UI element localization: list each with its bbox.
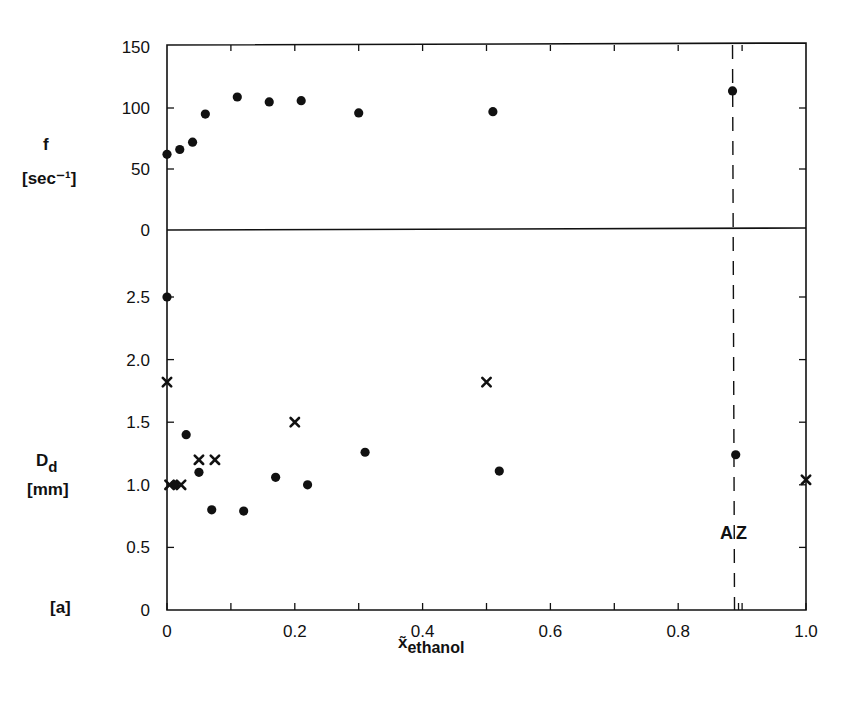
x-tick-label: 1.0 <box>794 622 818 641</box>
panel-label: [a] <box>50 598 71 617</box>
d-tick-label: 0 <box>141 601 150 620</box>
d-tick-label: 1.0 <box>126 476 150 495</box>
axis-titles: f [sec⁻¹] Dd [mm] [a] x̃ethanol AZ <box>22 135 750 656</box>
f-axis-label: f <box>43 135 49 154</box>
f-unit-text: [sec⁻¹] <box>22 169 76 188</box>
circle-marker <box>194 468 203 477</box>
f-tick-label: 50 <box>131 160 150 179</box>
f-tick-label: 150 <box>122 38 150 57</box>
circle-marker <box>297 96 306 105</box>
d-axis-label: Dd <box>36 451 57 475</box>
circle-marker <box>162 150 171 159</box>
axis-ticks <box>167 45 806 610</box>
data-points <box>162 86 810 515</box>
d-axis-unit: [mm] <box>27 480 69 499</box>
f-tick-label: 100 <box>122 99 150 118</box>
circle-marker <box>495 466 504 475</box>
circle-marker <box>188 138 197 147</box>
circle-marker <box>265 97 274 106</box>
d-tick-label: 2.5 <box>126 288 150 307</box>
f-axis-unit: [sec⁻¹] <box>22 169 76 188</box>
x-tick-label: 0.6 <box>539 622 563 641</box>
d-tick-label: 1.5 <box>126 413 150 432</box>
circle-marker <box>233 92 242 101</box>
cross-marker <box>482 378 490 386</box>
circle-marker <box>182 430 191 439</box>
cross-marker <box>211 456 219 464</box>
azeotrope-label: AZ <box>720 523 750 543</box>
d-tick-label: 2.0 <box>126 351 150 370</box>
circle-marker <box>731 450 740 459</box>
circle-marker <box>175 145 184 154</box>
cross-marker <box>195 456 203 464</box>
x-tick-label: 0.8 <box>666 622 690 641</box>
f-tick-label: 0 <box>141 221 150 240</box>
circle-marker <box>271 473 280 482</box>
d-tick-label: 0.5 <box>126 538 150 557</box>
zero-line <box>167 228 806 230</box>
cross-marker <box>291 418 299 426</box>
circle-marker <box>201 110 210 119</box>
circle-marker <box>239 506 248 515</box>
circle-marker <box>488 107 497 116</box>
plot-frame <box>167 43 806 610</box>
circle-marker <box>360 448 369 457</box>
circle-marker <box>162 292 171 301</box>
plot-border <box>167 43 806 610</box>
chart: 00.20.40.60.81.01501005002.52.01.51.00.5… <box>0 0 863 705</box>
circle-marker <box>207 505 216 514</box>
x-tick-label: 0 <box>162 622 171 641</box>
circle-marker <box>354 108 363 117</box>
x-tick-label: 0.2 <box>283 622 307 641</box>
tick-labels: 00.20.40.60.81.01501005002.52.01.51.00.5… <box>122 38 818 641</box>
circle-marker <box>728 86 737 95</box>
circle-marker <box>303 480 312 489</box>
